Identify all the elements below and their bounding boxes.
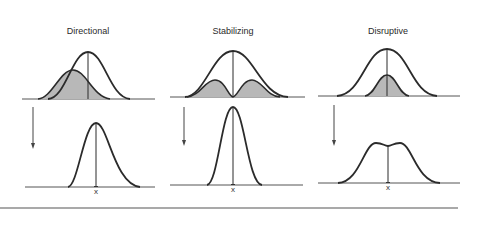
panel-directional — [22, 52, 155, 187]
mean-label-disruptive: x — [386, 183, 390, 192]
result-curve — [207, 107, 262, 185]
panel-disruptive — [318, 49, 460, 183]
down-arrow-icon — [332, 140, 336, 146]
result-curve — [68, 123, 140, 187]
result-curve — [338, 143, 440, 183]
down-arrow-icon — [31, 143, 35, 149]
mean-label-stabilizing: x — [231, 185, 235, 194]
panel-title-disruptive: Disruptive — [368, 26, 408, 36]
mean-label-directional: x — [94, 187, 98, 196]
panel-stabilizing — [170, 51, 305, 185]
panel-title-directional: Directional — [67, 26, 110, 36]
panel-title-stabilizing: Stabilizing — [212, 26, 253, 36]
down-arrow-icon — [182, 140, 186, 146]
